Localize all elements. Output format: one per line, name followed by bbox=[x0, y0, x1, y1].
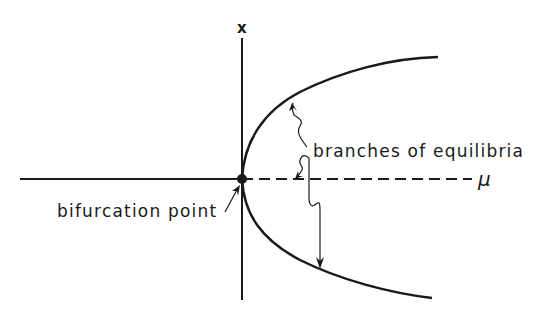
bifurcation-point-dot bbox=[237, 174, 247, 184]
branches-of-equilibria-label: branches of equilibria bbox=[313, 141, 524, 161]
bifurcation-diagram: x μ branches of equilibria bifurcation p… bbox=[0, 0, 555, 318]
arrow-head-bifurcation bbox=[232, 185, 240, 196]
arrow-lower-branch bbox=[309, 158, 320, 266]
mu-axis-label: μ bbox=[477, 167, 491, 191]
x-axis-label: x bbox=[237, 19, 247, 37]
lower-branch bbox=[242, 179, 432, 298]
arrow-bifurcation bbox=[225, 188, 238, 212]
bifurcation-point-label: bifurcation point bbox=[57, 201, 217, 221]
arrow-upper-branch bbox=[292, 103, 307, 147]
